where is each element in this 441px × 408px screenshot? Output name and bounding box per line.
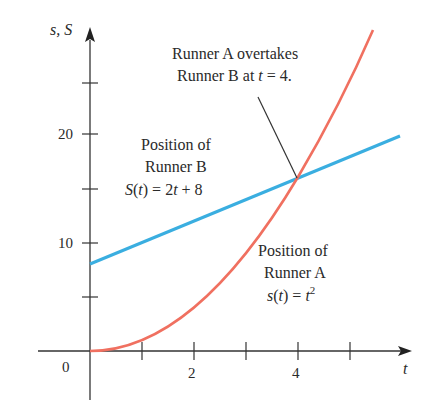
runner-a-label-line1: Position of — [258, 242, 328, 259]
overtake-label-line1: Runner A overtakes — [172, 45, 298, 62]
overtake-label-line2: Runner B at t = 4. — [177, 67, 292, 84]
runner-b-line — [90, 136, 400, 264]
chart: 0 2 4 t 10 20 s, S Runner A overtakes Ru… — [0, 0, 441, 408]
runner-b-label-line1: Position of — [141, 136, 211, 153]
runner-b-formula: S(t) = 2t + 8 — [125, 181, 203, 199]
x-tick-label-2: 2 — [188, 365, 196, 381]
y-tick-label-20: 20 — [58, 126, 73, 142]
y-axis-arrow-icon — [85, 27, 95, 42]
origin-label: 0 — [62, 359, 70, 375]
runner-a-formula: s(t) = t2 — [267, 284, 315, 305]
x-axis-label: t — [403, 360, 408, 377]
x-tick-label-4: 4 — [292, 365, 300, 381]
y-axis-label: s, S — [50, 21, 72, 38]
runner-a-label-line2: Runner A — [264, 264, 326, 281]
y-tick-label-10: 10 — [58, 235, 73, 251]
overtake-pointer — [258, 97, 297, 178]
runner-b-label-line2: Runner B — [145, 158, 207, 175]
